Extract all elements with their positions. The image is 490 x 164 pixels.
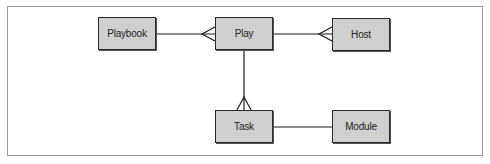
node-label: Task — [234, 121, 254, 132]
node-play: Play — [215, 17, 273, 50]
node-module: Module — [332, 110, 390, 143]
node-host: Host — [332, 18, 390, 51]
node-label: Play — [235, 28, 254, 39]
node-label: Playbook — [107, 28, 147, 39]
node-label: Host — [351, 29, 371, 40]
node-label: Module — [345, 121, 377, 132]
node-task: Task — [215, 110, 273, 143]
node-playbook: Playbook — [98, 17, 156, 50]
